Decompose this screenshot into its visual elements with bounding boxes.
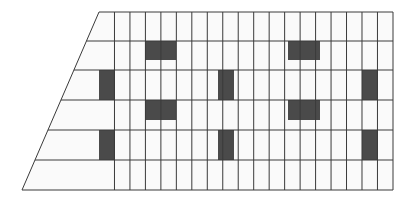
facade-figure: [0, 0, 399, 207]
lit-window-w3: [99, 70, 115, 100]
lit-window-w9: [218, 130, 234, 160]
lit-window-w8: [99, 130, 115, 160]
lit-window-w4: [218, 70, 234, 100]
lit-window-w5: [362, 70, 378, 100]
lit-window-w10: [362, 130, 378, 160]
